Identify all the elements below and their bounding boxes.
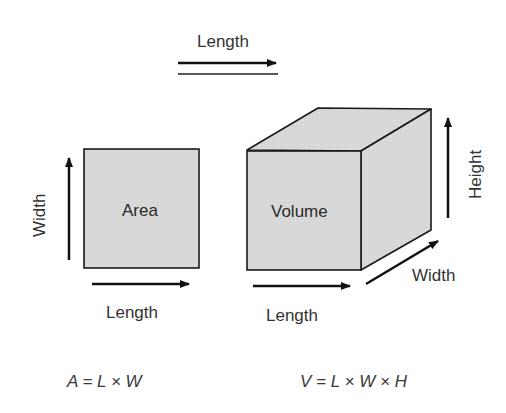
top-length-arrow [178,63,278,74]
diagram-canvas [0,0,506,413]
volume-width-label: Width [412,267,455,284]
area-formula: A = L × W [67,373,142,390]
volume-formula: V = L × W × H [300,373,407,390]
volume-cube [247,108,431,270]
volume-height-label: Height [467,150,484,199]
area-label: Area [122,202,158,219]
area-width-label: Width [31,194,48,237]
volume-label: Volume [271,203,328,220]
area-length-label: Length [106,304,158,321]
volume-length-label: Length [266,307,318,324]
top-length-label: Length [197,33,249,50]
